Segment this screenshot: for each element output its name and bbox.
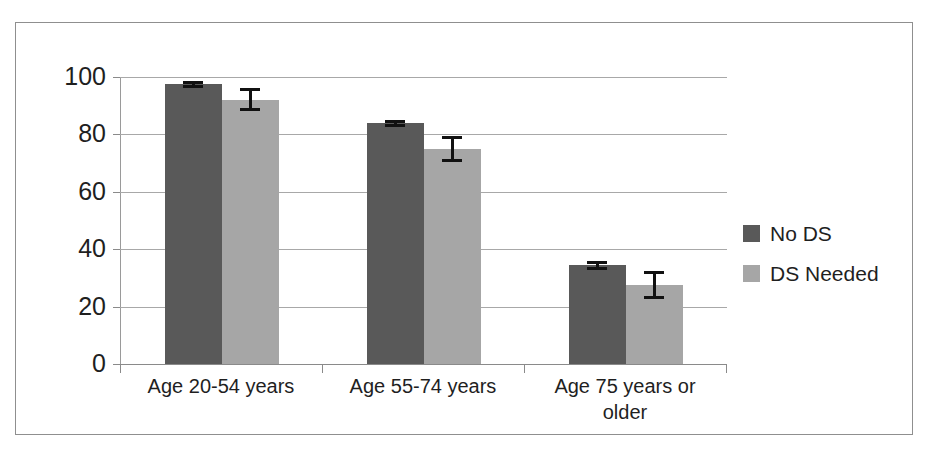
x-tick-mark-1 <box>322 364 323 373</box>
error-bar-cap-top <box>240 88 260 91</box>
error-bar-no-ds-age-55-74 <box>385 120 405 127</box>
y-tick-label-80: 80 <box>46 121 106 146</box>
error-bar-ds-needed-age-55-74 <box>442 136 462 162</box>
bar-ds-needed-age-55-74[interactable] <box>424 149 481 364</box>
error-bar-no-ds-age-20-54 <box>183 81 203 88</box>
x-tick-mark-end <box>726 364 727 373</box>
error-bar-cap-top <box>385 120 405 123</box>
category-label-line-1: Age 55-74 years <box>322 373 524 399</box>
y-tick-label-100: 100 <box>46 64 106 89</box>
y-tick-label-0: 0 <box>46 351 106 376</box>
error-bar-cap-top <box>644 271 664 274</box>
bar-no-ds-age-20-54[interactable] <box>165 84 222 364</box>
category-label-age-20-54: Age 20-54 years <box>120 373 322 399</box>
error-bar-no-ds-age-75-plus <box>587 261 607 270</box>
error-bar-cap-top <box>587 261 607 264</box>
category-label-age-75-plus: Age 75 years or older <box>524 373 726 425</box>
legend-entry-ds-needed[interactable]: DS Needed <box>743 253 879 293</box>
bar-no-ds-age-75-plus[interactable] <box>569 265 626 364</box>
error-bar-stem <box>653 271 656 299</box>
error-bar-cap-bottom <box>442 159 462 162</box>
x-tick-mark-2 <box>524 364 525 373</box>
category-label-age-55-74: Age 55-74 years <box>322 373 524 399</box>
error-bar-cap-bottom <box>587 267 607 270</box>
legend-label-ds-needed: DS Needed <box>770 263 879 284</box>
y-axis-tick-labels: 100 80 60 40 20 0 <box>38 23 106 434</box>
y-tick-label-40: 40 <box>46 236 106 261</box>
error-bar-cap-top <box>183 81 203 84</box>
error-bar-cap-bottom <box>644 296 664 299</box>
category-label-line-1: Age 20-54 years <box>120 373 322 399</box>
chart-frame: 100 80 60 40 20 0 <box>15 22 913 435</box>
plot-area <box>120 77 727 364</box>
legend-swatch-icon-no-ds <box>743 225 760 242</box>
gridline-0-baseline <box>120 364 727 365</box>
y-tick-label-60: 60 <box>46 179 106 204</box>
error-bar-cap-bottom <box>183 85 203 88</box>
legend-swatch-icon-ds-needed <box>743 265 760 282</box>
error-bar-cap-top <box>442 136 462 139</box>
legend: No DS DS Needed <box>743 213 879 293</box>
gridline-100 <box>120 77 727 78</box>
bar-no-ds-age-55-74[interactable] <box>367 123 424 364</box>
category-label-line-1: Age 75 years or <box>524 373 726 399</box>
category-label-line-2: older <box>524 399 726 425</box>
legend-entry-no-ds[interactable]: No DS <box>743 213 879 253</box>
error-bar-cap-bottom <box>240 108 260 111</box>
y-tick-label-20: 20 <box>46 294 106 319</box>
x-tick-mark-start <box>120 364 121 373</box>
error-bar-ds-needed-age-20-54 <box>240 88 260 111</box>
legend-label-no-ds: No DS <box>770 223 832 244</box>
error-bar-ds-needed-age-75-plus <box>644 271 664 299</box>
error-bar-cap-bottom <box>385 124 405 127</box>
bar-ds-needed-age-20-54[interactable] <box>222 100 279 364</box>
